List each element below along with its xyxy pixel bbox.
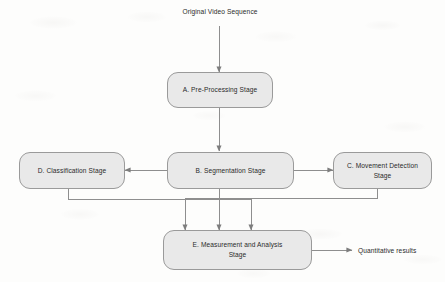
connector-c-to-e [185,189,377,230]
node-e-measurement-and-analysis-stage[interactable]: E. Measurement and Analysis Stage [163,230,312,270]
node-c-movement-detection-stage[interactable]: C. Movement Detection Stage [333,152,432,189]
source-label: Original Video Sequence [180,7,260,17]
flowchart-canvas: Original Video Sequence A. Pre-Processin… [0,0,445,282]
node-a-pre-processing-stage[interactable]: A. Pre-Processing Stage [167,72,273,108]
node-b-segmentation-stage[interactable]: B. Segmentation Stage [167,152,294,189]
output-label: Quantitative results [358,246,442,256]
node-d-classification-stage[interactable]: D. Classification Stage [19,152,125,189]
connector-d-to-e [68,189,251,230]
